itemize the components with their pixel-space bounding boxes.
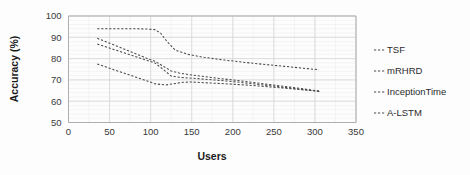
y-tick-label: 100 <box>46 10 62 21</box>
series-line-tsf <box>97 29 319 70</box>
y-tick-label: 60 <box>51 96 62 107</box>
x-tick-label: 100 <box>143 126 159 137</box>
x-axis-title: Users <box>197 150 226 162</box>
x-tick-label: 300 <box>307 126 323 137</box>
y-tick-label: 80 <box>51 53 62 64</box>
legend-label-mrhrd[interactable]: mRHRD <box>387 65 422 76</box>
legend-label-a-lstm[interactable]: A-LSTM <box>387 107 422 118</box>
series-line-mrhrd <box>97 38 320 91</box>
x-tick-label: 150 <box>184 126 200 137</box>
legend-label-inceptiontime[interactable]: InceptionTime <box>387 86 446 97</box>
series-lines <box>97 29 320 92</box>
y-tick-label: 50 <box>51 117 62 128</box>
x-tick-label: 200 <box>225 126 241 137</box>
x-tick-label: 50 <box>104 126 115 137</box>
y-tick-labels: 5060708090100 <box>46 10 62 128</box>
x-tick-labels: 050100150200250300350 <box>66 126 364 137</box>
x-tick-label: 0 <box>66 126 71 137</box>
x-tick-label: 350 <box>348 126 364 137</box>
legend: TSFmRHRDInceptionTimeA-LSTM <box>374 44 446 118</box>
y-tick-label: 70 <box>51 74 62 85</box>
chart-figure: 5060708090100 050100150200250300350 User… <box>0 0 470 175</box>
y-tick-label: 90 <box>51 32 62 43</box>
legend-label-tsf[interactable]: TSF <box>387 44 405 55</box>
x-tick-label: 250 <box>266 126 282 137</box>
y-axis-title: Accuracy (%) <box>8 36 20 103</box>
line-chart: 5060708090100 050100150200250300350 User… <box>0 0 470 175</box>
